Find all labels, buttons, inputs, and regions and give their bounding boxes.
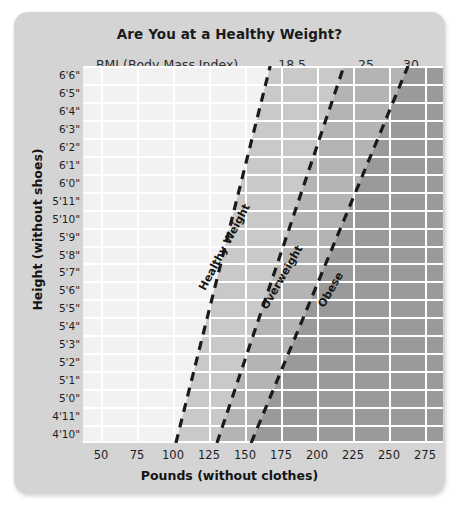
bmi-chart-card: Are You at a Healthy Weight? BMI (Body M… [14, 12, 445, 494]
x-tick-label: 175 [270, 448, 292, 462]
y-tick-label: 6'1" [59, 159, 80, 171]
y-tick-label: 5'10" [52, 213, 80, 225]
plot-area: Healthy WeightOverweightObese [83, 66, 443, 443]
y-tick-label: 5'6" [59, 284, 80, 296]
y-tick-label: 6'2" [59, 141, 80, 153]
x-tick-label: 250 [378, 448, 400, 462]
x-tick-label: 150 [234, 448, 256, 462]
y-tick-label: 6'6" [59, 69, 80, 81]
y-tick-label: 6'5" [59, 87, 80, 99]
y-axis-title: Height (without shoes) [30, 145, 45, 315]
x-tick-label: 225 [342, 448, 364, 462]
y-tick-label: 5'9" [59, 231, 80, 243]
page-title: Are You at a Healthy Weight? [14, 26, 445, 42]
x-tick-label: 200 [306, 448, 328, 462]
x-tick-label: 125 [198, 448, 220, 462]
y-tick-label: 6'3" [59, 123, 80, 135]
x-axis-title: Pounds (without clothes) [14, 468, 445, 483]
y-tick-label: 5'0" [59, 392, 80, 404]
y-tick-label: 5'7" [59, 266, 80, 278]
x-axis-ticks: 5075100125150175200225250275 [83, 448, 443, 466]
x-tick-label: 50 [94, 448, 109, 462]
divider-line-bmi-25 [217, 66, 344, 443]
y-tick-label: 4'10" [52, 428, 80, 440]
y-tick-label: 5'1" [59, 374, 80, 386]
x-tick-label: 75 [130, 448, 145, 462]
x-tick-label: 100 [162, 448, 184, 462]
y-tick-label: 5'8" [59, 249, 80, 261]
y-tick-label: 5'5" [59, 302, 80, 314]
y-tick-label: 6'4" [59, 105, 80, 117]
y-tick-label: 5'4" [59, 320, 80, 332]
bmi-divider-lines [83, 66, 443, 443]
x-tick-label: 275 [414, 448, 436, 462]
y-tick-label: 6'0" [59, 177, 80, 189]
y-tick-label: 4'11" [52, 410, 80, 422]
divider-line-bmi-30 [251, 66, 408, 443]
y-tick-label: 5'11" [52, 195, 80, 207]
y-tick-label: 5'2" [59, 356, 80, 368]
y-tick-label: 5'3" [59, 338, 80, 350]
